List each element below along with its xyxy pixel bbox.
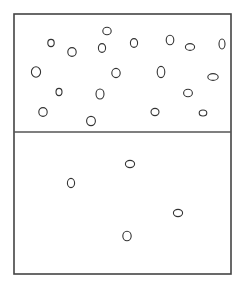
particle: [208, 74, 218, 81]
particle: [112, 68, 120, 77]
diagram-canvas: [0, 0, 244, 285]
particle: [157, 66, 165, 77]
upper-region-particles: [31, 27, 225, 125]
particle: [173, 209, 182, 216]
particle: [151, 108, 159, 115]
particle: [98, 44, 105, 53]
lower-region-particles: [67, 160, 182, 240]
particle-diagram: [0, 0, 244, 285]
particle: [87, 116, 96, 125]
particle: [199, 110, 207, 116]
particle: [184, 89, 193, 97]
particle: [219, 39, 225, 49]
particle: [56, 88, 62, 95]
particle: [123, 231, 131, 241]
particle: [96, 89, 104, 99]
particle: [67, 178, 74, 187]
particle: [185, 44, 194, 51]
particle: [125, 160, 134, 167]
particle: [130, 39, 137, 48]
particle: [39, 108, 47, 117]
particle: [103, 27, 111, 35]
particle: [48, 39, 54, 46]
particle: [31, 67, 40, 77]
particle: [166, 35, 174, 45]
particle: [68, 48, 76, 57]
